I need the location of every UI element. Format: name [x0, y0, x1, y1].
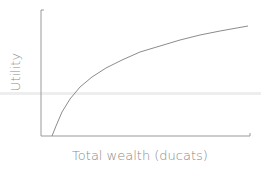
faint-horizontal-band [0, 92, 261, 95]
x-axis-label: Total wealth (ducats) [72, 148, 208, 163]
utility-curve [52, 26, 248, 136]
utility-chart: Utility Total wealth (ducats) [0, 0, 261, 173]
axes [41, 10, 250, 136]
y-axis-label: Utility [8, 53, 23, 91]
